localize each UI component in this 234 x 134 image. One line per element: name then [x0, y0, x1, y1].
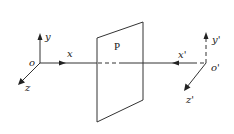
plane-label: P [114, 40, 120, 52]
z-prime-axis [187, 63, 206, 87]
y-prime-arrow-icon [204, 32, 209, 39]
diagram-canvas: P y x z o x' [0, 0, 234, 134]
y-arrow-icon [38, 33, 43, 40]
x-arrow-icon [59, 61, 66, 66]
origin-prime-label: o' [211, 62, 220, 73]
x-label: x [67, 48, 73, 59]
left-coordinate-frame: y x z o [18, 31, 97, 93]
diagram-svg: P y x z o x' [0, 0, 234, 134]
origin-label: o [29, 57, 35, 68]
y-prime-label: y' [211, 34, 220, 45]
right-coordinate-frame: x' y' z' o' [143, 32, 220, 105]
y-label: y [44, 31, 51, 42]
x-prime-label: x' [178, 49, 186, 60]
z-label: z [24, 82, 31, 93]
plane-p [97, 22, 143, 122]
z-prime-arrow-icon [184, 84, 191, 92]
z-prime-label: z' [185, 94, 194, 105]
x-prime-arrow-icon [172, 61, 179, 66]
